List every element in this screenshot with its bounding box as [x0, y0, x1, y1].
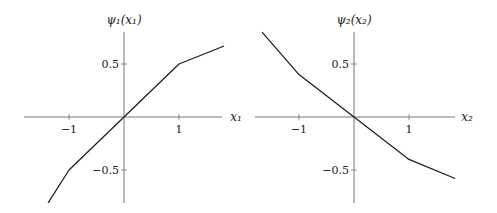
plot-1-y-tick-label: 0.5: [102, 58, 120, 71]
plot-2-y-tick-label: −0.5: [322, 164, 349, 177]
plot-2-series-line: [262, 32, 455, 178]
plot-2-x-tick-label: −1: [291, 123, 307, 136]
plot-1-x-axis-label: x₁: [230, 110, 242, 124]
plot-2-y-tick-label: 0.5: [332, 58, 350, 71]
plot-1-y-tick-label: −0.5: [92, 164, 119, 177]
plot-2-y-axis-label: ψ₂(x₂): [336, 13, 371, 27]
plot-1-y-axis-label: ψ₁(x₁): [106, 13, 141, 27]
plot-1-x-tick-label: −1: [61, 123, 77, 136]
plot-2-x-axis-label: x₂: [461, 110, 473, 124]
plot-1-x-tick-label: 1: [176, 123, 183, 136]
chart-canvas: −110.5−0.5x₁ψ₁(x₁)−110.5−0.5x₂ψ₂(x₂): [0, 0, 497, 213]
plot-2-x-tick-label: 1: [406, 123, 413, 136]
